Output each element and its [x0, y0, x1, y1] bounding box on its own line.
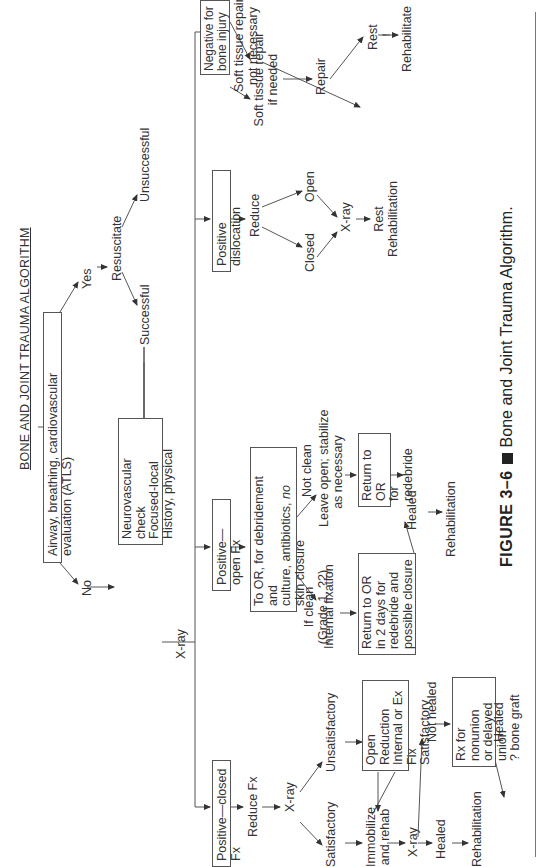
rest-rehabilitation-label: Rest Rehabilitation: [372, 179, 400, 259]
text-line: To OR, for debridement and: [253, 453, 280, 606]
figure-title: BONE AND JOINT TRAUMA ALGORITHM: [18, 227, 32, 470]
text-line: culture, antibiotics, no: [280, 453, 294, 606]
figure-number: FIGURE 3–6: [498, 470, 515, 567]
text-line: and rehab: [378, 807, 392, 867]
text-line: Immobilize: [364, 807, 378, 867]
to-or-debridement-box: To OR, for debridement and culture, anti…: [250, 447, 297, 612]
immobilize-rehab-label: Immobilize and rehab: [364, 807, 392, 867]
healed-open-label: Healed: [405, 490, 419, 530]
text-line: in 2 days for: [375, 559, 389, 649]
text-line: Rehabilitation: [386, 179, 400, 259]
leave-open-label: Leave open; stabilize as necessary: [317, 417, 345, 527]
text-line: Internal or Ex Fix: [392, 686, 419, 765]
not-healed-label: Not healed: [425, 682, 439, 742]
italic-no: no: [279, 485, 293, 499]
caption-text: Bone and Joint Trauma Algorithm.: [498, 206, 515, 447]
reduce-fx-label: Reduce Fx: [246, 777, 260, 837]
return-or-redebride-box: Return to OR for redebride: [358, 433, 391, 507]
rehabilitation-open-label: Rehabilitation: [444, 481, 458, 557]
text-line: if needed: [266, 27, 280, 132]
text-line: Open Reduction: [365, 686, 392, 765]
square-bullet-icon: [502, 453, 513, 464]
xray-closed-label: X-ray: [283, 782, 297, 812]
airway-evaluation-box: Airway, breathing, cardiovascular evalua…: [43, 312, 62, 563]
text-line: Rest: [372, 179, 386, 259]
text-line: Return to OR: [361, 559, 375, 649]
text-line: Return to OR: [361, 439, 388, 501]
history-physical-box: Neurovascular check Focused-local Histor…: [118, 418, 163, 545]
text-line: redebride and: [388, 559, 402, 649]
rehabilitation-closed-label: Rehabilitation: [470, 791, 484, 867]
history-line: Neurovascular check: [121, 424, 148, 539]
reduce-label: Reduce: [248, 194, 262, 237]
text-line: possible closure: [402, 559, 416, 649]
text-line: Rx for nonunion: [455, 683, 482, 761]
flowchart-figure: BONE AND JOINT TRAUMA ALGORITHM Airway, …: [0, 0, 554, 867]
text-line: Soft tissue repair: [232, 0, 246, 92]
xray-dislocation-label: X-ray: [339, 202, 353, 232]
repair-label: Repair: [314, 58, 328, 95]
positive-closed-fx-box: Positive—closed Fx: [212, 760, 231, 867]
internal-fixation-label: Internal fixation: [322, 564, 336, 649]
return-or-2days-box: Return to OR in 2 days for redebride and…: [358, 553, 416, 655]
text-line: ? bone graft: [509, 683, 523, 761]
text-line: Leave open; stabilize: [317, 417, 331, 527]
resuscitate-label: Resuscitate: [110, 216, 124, 281]
rehabilitate-label: Rehabilitate: [400, 6, 414, 72]
open-label: Open: [303, 171, 317, 202]
history-line: History, physical: [162, 424, 176, 539]
figure-caption: FIGURE 3–6Bone and Joint Trauma Algorith…: [498, 206, 516, 567]
text-line: as necessary: [331, 417, 345, 527]
xray-immobilize-label: X-ray: [406, 827, 420, 857]
negative-bone-injury-box: Negative for bone injury: [200, 0, 230, 75]
no-label: No: [80, 580, 94, 596]
positive-open-fx-box: Positive—open Fx: [212, 499, 231, 591]
healed-closed-label: Healed: [434, 819, 448, 859]
open-reduction-box: Open Reduction Internal or Ex Fix Satisf…: [362, 680, 409, 771]
history-line: Focused-local: [148, 424, 162, 539]
rest-label: Rest: [366, 24, 380, 50]
text-line: If clean: [302, 567, 316, 647]
successful-label: Successful: [138, 285, 152, 345]
yes-label: Yes: [80, 269, 94, 289]
text-line: not necessary: [246, 0, 260, 92]
bottom-rule: [535, 12, 536, 857]
unsuccessful-label: Unsuccessful: [138, 128, 152, 202]
xray-main-label: X-ray: [174, 629, 188, 659]
positive-dislocation-box: Positive dislocation: [212, 170, 231, 272]
closed-label: Closed: [303, 233, 317, 272]
soft-tissue-not-necessary-label: Soft tissue repair not necessary: [232, 0, 260, 92]
satisfactory-label: Satisfactory: [324, 802, 338, 867]
rx-nonunion-box: Rx for nonunion or delayed union ? bone …: [452, 677, 496, 767]
unsatisfactory-label: Unsatisfactory: [324, 693, 338, 772]
not-clean-label: Not clean: [300, 444, 314, 497]
healed-rx-label: Healed: [492, 702, 506, 742]
